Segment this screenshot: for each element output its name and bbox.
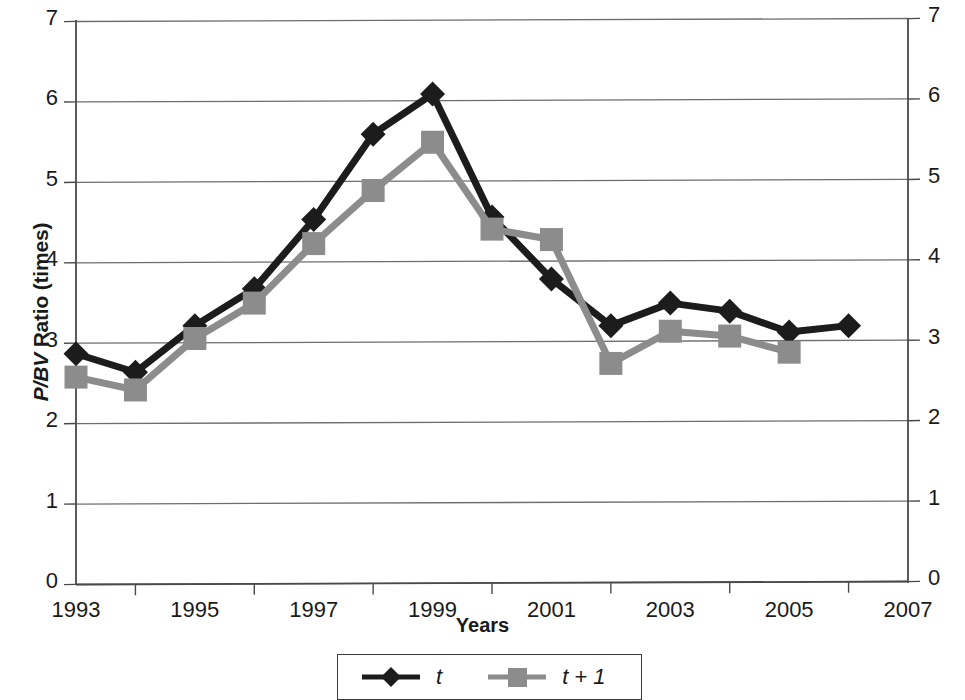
y-axis-right-tick-label: 4 bbox=[928, 243, 965, 269]
y-axis-left-tick-label: 5 bbox=[18, 166, 58, 192]
legend-item-t-plus-1: t + 1 bbox=[486, 664, 605, 690]
y-axis-left-tick-label: 0 bbox=[18, 568, 58, 594]
legend-label-t-plus-1: t + 1 bbox=[562, 664, 605, 690]
legend-swatch-square-icon bbox=[486, 664, 548, 690]
y-axis-right-tick-label: 1 bbox=[928, 485, 965, 511]
x-axis-title: Years bbox=[0, 614, 965, 637]
legend-label-t: t bbox=[436, 664, 442, 690]
y-axis-left-tick-label: 4 bbox=[18, 246, 58, 272]
y-axis-left-tick-label: 1 bbox=[18, 488, 58, 514]
chart-legend: t t + 1 bbox=[337, 654, 642, 700]
y-axis-right-tick-label: 6 bbox=[928, 82, 965, 108]
y-axis-right-tick-label: 0 bbox=[928, 565, 965, 591]
y-axis-left-tick-label: 6 bbox=[18, 85, 58, 111]
y-axis-right-tick-label: 2 bbox=[928, 404, 965, 430]
y-axis-left-tick-label: 2 bbox=[18, 407, 58, 433]
y-axis-right-tick-label: 5 bbox=[928, 163, 965, 189]
legend-swatch-diamond-icon bbox=[360, 664, 422, 690]
gridlines-group bbox=[76, 19, 908, 585]
y-axis-right-tick-label: 7 bbox=[928, 2, 965, 28]
axes-group bbox=[76, 18, 908, 585]
tick-marks-group bbox=[64, 18, 920, 595]
legend-item-t: t bbox=[360, 664, 442, 690]
y-axis-left-tick-label: 3 bbox=[18, 327, 58, 353]
data-series-group bbox=[64, 81, 862, 401]
y-axis-right-tick-label: 3 bbox=[928, 324, 965, 350]
y-axis-left-tick-label: 7 bbox=[18, 5, 58, 31]
